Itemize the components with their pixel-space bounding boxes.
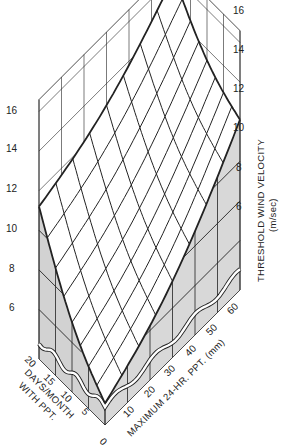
left-z-tick-labels: 6 8 10 12 14 16 (6, 105, 18, 313)
tick-label: 8 (9, 263, 15, 274)
z-axis-title: THRESHOLD WIND VELOCITY (255, 139, 266, 282)
tick-label: 12 (6, 183, 18, 194)
tick-label: 16 (6, 105, 18, 116)
chart-geometry (39, 0, 240, 425)
surface-chart: 6 8 10 12 14 16 6 8 10 12 14 16 THRESHOL… (0, 0, 281, 447)
tick-label: 5 (80, 406, 92, 418)
tick-label: 10 (233, 122, 245, 133)
z-axis-unit: (m/sec) (267, 198, 278, 232)
tick-label: 10 (6, 223, 18, 234)
tick-label: 6 (9, 302, 15, 313)
tick-label: 8 (236, 162, 242, 173)
tick-label: 14 (6, 143, 18, 154)
tick-label: 6 (236, 201, 242, 212)
tick-label: 0 (98, 436, 110, 447)
tick-label: 16 (233, 5, 245, 16)
tick-label: 12 (233, 83, 245, 94)
tick-label: 14 (233, 44, 245, 55)
